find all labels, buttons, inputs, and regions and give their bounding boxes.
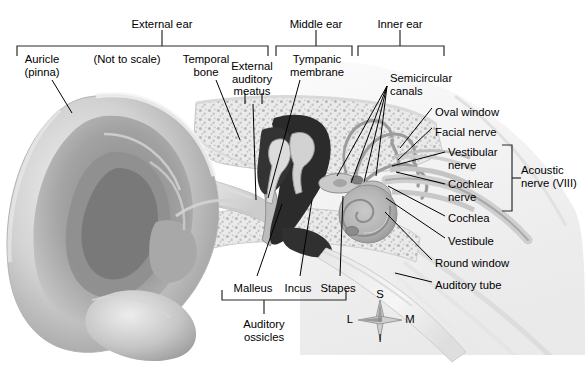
label-semicircular-canals: Semicircular canals (390, 72, 452, 97)
bracket-inner-ear (358, 46, 444, 56)
leader-cochlea (388, 186, 445, 216)
label-facial-nerve: Facial nerve (435, 126, 497, 139)
leader-auricle (52, 80, 72, 113)
label-vestibule: Vestibule (448, 235, 494, 248)
label-auricle: Auricle (pinna) (24, 53, 59, 78)
label-temporal-bone: Temporal bone (183, 53, 229, 78)
label-external-auditory-meatus: External auditory meatus (231, 60, 272, 98)
leader-cochlear (396, 172, 445, 184)
region-label-external-ear: External ear (132, 18, 193, 31)
leader-sc-1 (337, 86, 387, 176)
leader-sc-3 (364, 86, 387, 182)
region-label-inner-ear: Inner ear (377, 18, 422, 31)
leader-auditory-tube (395, 273, 432, 282)
label-oval-window: Oval window (435, 106, 499, 119)
leader-vestibule (386, 198, 445, 238)
region-label-middle-ear: Middle ear (290, 18, 343, 31)
leader-eam-down (253, 104, 256, 200)
label-round-window: Round window (435, 257, 509, 270)
label-acoustic-nerve: Acoustic nerve (VIII) (521, 164, 577, 189)
label-stapes: Stapes (320, 282, 355, 295)
label-not-to-scale: (Not to scale) (93, 53, 160, 66)
bracket-acoustic-nerve (502, 145, 512, 211)
label-malleus: Malleus (234, 282, 273, 295)
leader-vestibular (392, 152, 445, 166)
compass-superior: S (376, 288, 384, 301)
compass-lateral: L (347, 313, 353, 326)
label-cochlea: Cochlea (448, 212, 489, 225)
compass-medial: M (405, 313, 414, 326)
leader-lines-group (52, 80, 445, 282)
leader-oval-window (400, 108, 432, 148)
label-incus: Incus (284, 282, 311, 295)
compass-inferior: I (378, 332, 381, 345)
leader-incus (300, 200, 312, 276)
label-auditory-ossicles: Auditory ossicles (243, 318, 284, 343)
label-vestibular-nerve: Vestibular nerve (448, 146, 498, 171)
ear-anatomy-figure: External earMiddle earInner earAuditory … (0, 0, 585, 372)
label-cochlear-nerve: Cochlear nerve (448, 178, 493, 203)
label-tympanic-membrane: Tympanic membrane (290, 53, 344, 78)
leader-stapes (340, 196, 343, 276)
label-auditory-tube: Auditory tube (435, 279, 502, 292)
leader-round-window (385, 212, 432, 260)
leader-malleus (257, 204, 282, 276)
leader-tympanic (268, 80, 300, 198)
leader-sc-2 (351, 86, 387, 183)
